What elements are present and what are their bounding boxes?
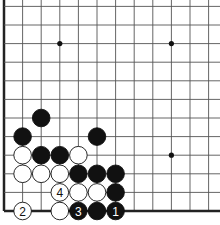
move-number: 4 bbox=[56, 186, 63, 200]
white-stone bbox=[70, 184, 88, 202]
star-point bbox=[57, 41, 62, 46]
black-stone bbox=[107, 184, 125, 202]
move-number: 3 bbox=[75, 205, 82, 219]
white-stone: 4 bbox=[51, 184, 69, 202]
stones: 4231 bbox=[14, 109, 125, 220]
black-stone bbox=[32, 146, 50, 164]
black-stone: 3 bbox=[70, 202, 88, 220]
black-stone bbox=[70, 165, 88, 183]
white-stone bbox=[88, 184, 106, 202]
star-point bbox=[169, 153, 174, 158]
black-stone bbox=[88, 202, 106, 220]
white-stone: 2 bbox=[14, 202, 32, 220]
white-stone bbox=[51, 165, 69, 183]
white-stone bbox=[14, 165, 32, 183]
black-stone bbox=[32, 109, 50, 127]
black-stone bbox=[88, 165, 106, 183]
white-stone bbox=[70, 146, 88, 164]
move-number: 2 bbox=[19, 205, 26, 219]
black-stone: 1 bbox=[107, 202, 125, 220]
black-stone bbox=[14, 128, 32, 146]
black-stone bbox=[51, 146, 69, 164]
star-point bbox=[169, 41, 174, 46]
black-stone bbox=[107, 165, 125, 183]
white-stone bbox=[32, 165, 50, 183]
white-stone bbox=[51, 202, 69, 220]
white-stone bbox=[14, 146, 32, 164]
move-number: 1 bbox=[112, 205, 119, 219]
black-stone bbox=[88, 128, 106, 146]
go-board: 4231 bbox=[0, 0, 220, 225]
